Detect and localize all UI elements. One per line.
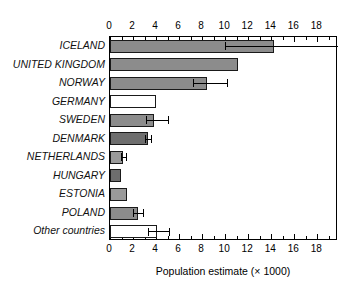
x-tick-label: 4 xyxy=(152,243,158,254)
x-tick-label: 14 xyxy=(265,20,276,31)
error-bar-cap xyxy=(225,42,226,50)
x-tick-label: 18 xyxy=(311,20,322,31)
x-tick-label: 0 xyxy=(106,20,112,31)
bar-row xyxy=(110,222,338,241)
x-tick-label: 12 xyxy=(242,20,253,31)
error-bar-cap xyxy=(151,135,152,143)
population-estimate-bar-chart: ICELANDUNITED KINGDOMNORWAYGERMANYSWEDEN… xyxy=(0,0,355,285)
bar-row xyxy=(110,148,338,167)
error-bar-cap xyxy=(148,228,149,236)
category-label: UNITED KINGDOM xyxy=(0,55,105,74)
error-bar-cap xyxy=(121,153,122,161)
x-tick-label: 6 xyxy=(175,20,181,31)
x-tick-label: 4 xyxy=(152,20,158,31)
bar xyxy=(110,95,156,108)
bar-row xyxy=(110,93,338,112)
plot-area xyxy=(109,36,337,240)
x-tick-label: 16 xyxy=(288,243,299,254)
error-bar xyxy=(146,120,168,121)
bar-row xyxy=(110,74,338,93)
error-bar-cap xyxy=(227,79,228,87)
x-tick-label: 8 xyxy=(198,243,204,254)
bar-row xyxy=(110,37,338,56)
error-bar xyxy=(145,139,152,140)
error-bar-cap xyxy=(126,153,127,161)
x-tick-label: 2 xyxy=(129,243,135,254)
category-label: SWEDEN xyxy=(0,110,105,129)
error-bar-cap xyxy=(146,116,147,124)
bar-row xyxy=(110,204,338,223)
error-bar-cap xyxy=(169,228,170,236)
category-label: Other countries xyxy=(0,221,105,240)
bar xyxy=(110,58,238,71)
error-bar-cap xyxy=(143,209,144,217)
category-label: HUNGARY xyxy=(0,166,105,185)
category-label: NORWAY xyxy=(0,73,105,92)
category-label: GERMANY xyxy=(0,92,105,111)
bar xyxy=(110,169,121,182)
x-tick-label: 8 xyxy=(198,20,204,31)
bar xyxy=(110,132,148,145)
x-tick-label: 10 xyxy=(219,243,230,254)
category-label: DENMARK xyxy=(0,129,105,148)
error-bar xyxy=(133,213,143,214)
error-bar-cap xyxy=(133,209,134,217)
category-label: ICELAND xyxy=(0,36,105,55)
error-bar xyxy=(225,46,338,47)
bar-row xyxy=(110,167,338,186)
category-label: NETHERLANDS xyxy=(0,147,105,166)
category-label: POLAND xyxy=(0,203,105,222)
bar xyxy=(110,188,127,201)
x-tick-label: 6 xyxy=(175,243,181,254)
x-axis-title: Population estimate (× 1000) xyxy=(109,265,337,277)
x-tick-label: 2 xyxy=(129,20,135,31)
x-tick-label: 0 xyxy=(106,243,112,254)
error-bar-cap xyxy=(145,135,146,143)
bar-rows xyxy=(110,37,336,239)
bar-row xyxy=(110,130,338,149)
error-bar xyxy=(148,231,169,232)
bar-row xyxy=(110,56,338,75)
x-tick-label: 14 xyxy=(265,243,276,254)
bar-row xyxy=(110,185,338,204)
bar-row xyxy=(110,111,338,130)
error-bar-cap xyxy=(193,79,194,87)
x-tick-label: 16 xyxy=(288,20,299,31)
error-bar xyxy=(193,83,228,84)
x-tick-label: 18 xyxy=(311,243,322,254)
x-tick-label: 10 xyxy=(219,20,230,31)
x-tick-label: 12 xyxy=(242,243,253,254)
error-bar-cap xyxy=(168,116,169,124)
category-label: ESTONIA xyxy=(0,184,105,203)
